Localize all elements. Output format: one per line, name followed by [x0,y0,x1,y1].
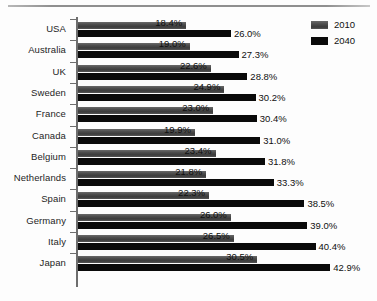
bar-2040[interactable] [78,179,274,186]
value-label-2010: 23.0% [182,102,209,113]
value-label-2040: 28.8% [250,71,277,82]
bar-row: France23.0%30.4% [0,104,377,125]
category-label: Sweden [0,87,66,98]
value-label-2040: 31.0% [263,135,290,146]
bar-row: Italy26.5%40.4% [0,232,377,253]
value-label-2040: 38.5% [307,198,334,209]
bar-row: Netherlands21.8%33.3% [0,168,377,189]
category-label: USA [0,23,66,34]
value-label-2010: 18.4% [155,17,182,28]
axis-tick [70,147,77,148]
value-label-2010: 26.0% [200,209,227,220]
bar-2040[interactable] [78,158,265,165]
legend-swatch-2010 [311,21,328,29]
category-label: Germany [0,215,66,226]
category-label: Australia [0,44,66,55]
bar-2040[interactable] [78,73,247,80]
bar-2040[interactable] [78,264,330,271]
bar-row: Belgium23.4%31.8% [0,147,377,168]
value-label-2010: 30.5% [226,251,253,262]
bar-row: Canada19.9%31.0% [0,126,377,147]
chart-screenshot: USA18.4%26.0%Australia19.0%27.3%UK22.6%2… [0,0,377,301]
value-label-2010: 26.5% [203,230,230,241]
value-label-2040: 33.3% [277,177,304,188]
axis-tick [70,19,77,20]
bar-row: Spain22.3%38.5% [0,189,377,210]
value-label-2010: 23.4% [185,145,212,156]
value-label-2040: 27.3% [242,49,269,60]
value-label-2040: 30.2% [259,92,286,103]
axis-tick [70,104,77,105]
axis-tick [70,40,77,41]
category-label: Canada [0,130,66,141]
bar-2040[interactable] [78,51,239,58]
category-label: Netherlands [0,172,66,183]
bar-2040[interactable] [78,115,257,122]
chart-legend: 2010 2040 [311,19,373,51]
axis-tick [70,168,77,169]
value-label-2040: 42.9% [333,262,360,273]
axis-tick [70,232,77,233]
value-label-2010: 24.9% [193,81,220,92]
category-label: Belgium [0,151,66,162]
category-label: France [0,108,66,119]
value-label-2040: 40.4% [319,241,346,252]
axis-tick [70,83,77,84]
value-label-2010: 21.8% [175,166,202,177]
value-label-2010: 19.9% [164,124,191,135]
bar-2040[interactable] [78,222,307,229]
plot-area: USA18.4%26.0%Australia19.0%27.3%UK22.6%2… [0,17,377,289]
bar-2040[interactable] [78,243,316,250]
value-label-2010: 19.0% [159,38,186,49]
bar-row: Germany26.0%39.0% [0,211,377,232]
bar-row: Japan30.5%42.9% [0,253,377,274]
bar-2040[interactable] [78,137,260,144]
legend-label-2010: 2010 [334,19,355,30]
legend-item-2040[interactable]: 2040 [311,35,373,48]
value-label-2040: 39.0% [310,220,337,231]
category-label: Italy [0,236,66,247]
legend-item-2010[interactable]: 2010 [311,19,373,32]
axis-tick [70,189,77,190]
value-label-2010: 22.3% [178,187,205,198]
axis-tick [70,62,77,63]
bar-2040[interactable] [78,94,256,101]
category-label: Spain [0,193,66,204]
bar-row: UK22.6%28.8% [0,62,377,83]
value-label-2010: 22.6% [180,60,207,71]
bar-2040[interactable] [78,30,231,37]
top-divider [8,5,370,7]
axis-tick [70,253,77,254]
category-label: Japan [0,257,66,268]
axis-tick [70,211,77,212]
bar-2040[interactable] [78,200,304,207]
bar-row: Sweden24.9%30.2% [0,83,377,104]
bar-rows: USA18.4%26.0%Australia19.0%27.3%UK22.6%2… [0,17,377,287]
category-label: UK [0,66,66,77]
value-label-2040: 31.8% [268,156,295,167]
legend-swatch-2040 [311,37,328,45]
value-label-2040: 26.0% [234,28,261,39]
axis-tick [70,126,77,127]
value-label-2040: 30.4% [260,113,287,124]
legend-label-2040: 2040 [334,35,355,46]
